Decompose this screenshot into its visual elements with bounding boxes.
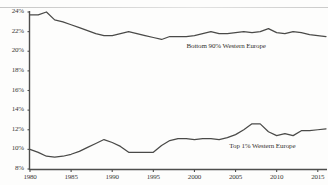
y-axis-tick-label: 14% [0, 105, 24, 113]
y-axis-tick-label: 22% [0, 27, 24, 35]
x-axis-tick-label: 2015 [305, 173, 328, 181]
x-axis-tick-label: 1990 [99, 173, 125, 181]
y-axis-tick-label: 24% [0, 7, 24, 15]
series-annotation-bottom-90: Bottom 90% Western Europe [186, 42, 265, 50]
y-axis-tick-label: 8% [0, 164, 24, 172]
series-annotation-top-1: Top 1% Western Europe [229, 142, 295, 150]
series-line-bottom-90 [30, 12, 326, 39]
x-axis-tick-label: 2005 [223, 173, 249, 181]
chart-figure: 8%10%12%14%16%18%20%22%24% 1980198519901… [0, 0, 328, 185]
y-axis-tick-label: 12% [0, 125, 24, 133]
series-line-top-1 [30, 124, 326, 157]
y-axis-tick-label: 20% [0, 46, 24, 54]
x-axis-tick-label: 1985 [58, 173, 84, 181]
y-axis-tick-label: 10% [0, 144, 24, 152]
y-axis-tick-label: 16% [0, 86, 24, 94]
x-axis-tick-label: 2010 [264, 173, 290, 181]
plot-area [0, 0, 328, 185]
x-axis-tick-label: 1995 [140, 173, 166, 181]
x-axis-tick-label: 2000 [181, 173, 207, 181]
x-axis-tick-label: 1980 [17, 173, 43, 181]
y-axis-tick-label: 18% [0, 66, 24, 74]
